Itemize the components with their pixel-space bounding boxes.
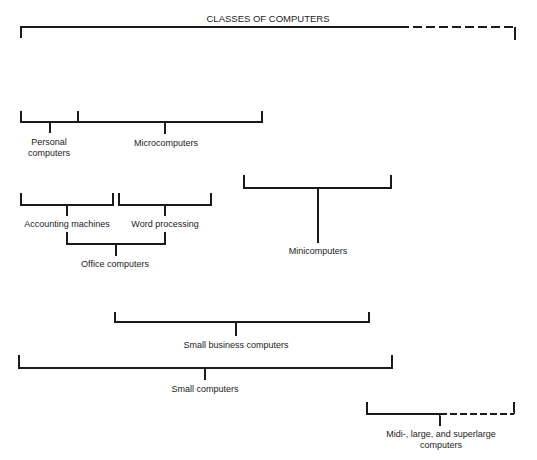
label-microcomputers: Microcomputers [134, 138, 198, 149]
classes-of-computers-diagram: CLASSES OF COMPUTERS Personalcomputers M… [0, 0, 537, 460]
mini-bracket [244, 175, 391, 243]
label-word-processing: Word processing [131, 219, 198, 230]
label-office-computers: Office computers [81, 259, 149, 270]
label-personal: Personalcomputers [28, 137, 70, 159]
personal-line2: computers [28, 148, 70, 158]
small-bracket [19, 355, 392, 380]
label-accounting-machines: Accounting machines [24, 219, 110, 230]
midi-line2: computers [420, 440, 462, 450]
all-classes-bracket [21, 27, 400, 38]
accounting-bracket [21, 193, 113, 216]
bracket-lines [0, 0, 537, 460]
personal-line1: Personal [31, 137, 67, 147]
label-small-business-computers: Small business computers [183, 340, 288, 351]
label-minicomputers: Minicomputers [289, 246, 348, 257]
label-small-computers: Small computers [171, 384, 238, 395]
diagram-title: CLASSES OF COMPUTERS [207, 13, 330, 24]
small-business-bracket [115, 312, 369, 336]
micro-bracket [21, 111, 262, 134]
midi-line1: Midi-, large, and superlarge [386, 429, 496, 439]
label-midi-large-superlarge: Midi-, large, and superlargecomputers [386, 429, 496, 451]
word-bracket [119, 193, 211, 216]
office-bracket [67, 232, 165, 256]
